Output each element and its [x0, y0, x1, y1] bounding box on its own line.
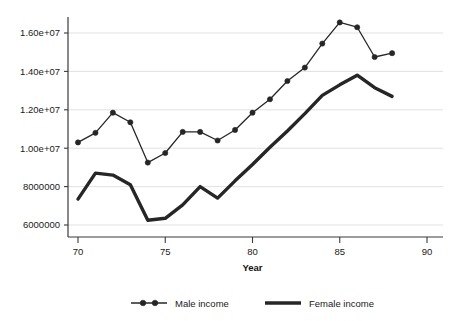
- data-point-male-74: [145, 160, 150, 165]
- data-point-male-82: [285, 78, 290, 83]
- data-point-male-71: [93, 130, 98, 135]
- x-tick-label-2: 80: [247, 246, 258, 257]
- data-point-male-73: [128, 120, 133, 125]
- x-tick-label-1: 75: [160, 246, 171, 257]
- data-point-male-81: [267, 97, 272, 102]
- series-line-female-income: [78, 75, 392, 220]
- chart-canvas: 600000080000001.00e+071.20e+071.40e+071.…: [0, 0, 451, 321]
- data-point-male-75: [163, 150, 168, 155]
- data-point-male-78: [215, 138, 220, 143]
- legend-label-female-income: Female income: [309, 298, 374, 309]
- data-point-male-77: [198, 129, 203, 134]
- data-point-male-83: [302, 65, 307, 70]
- y-tick-label-1: 8000000: [23, 181, 60, 192]
- income-line-chart: 600000080000001.00e+071.20e+071.40e+071.…: [0, 0, 451, 321]
- data-point-male-84: [320, 41, 325, 46]
- y-tick-label-5: 1.60e+07: [20, 27, 60, 38]
- legend-marker-male-2: [152, 300, 158, 306]
- legend-marker-male-1: [140, 300, 146, 306]
- data-point-male-79: [232, 127, 237, 132]
- data-point-male-85: [337, 20, 342, 25]
- data-point-male-80: [250, 110, 255, 115]
- y-tick-label-2: 1.00e+07: [20, 143, 60, 154]
- series-line-male-income: [78, 22, 392, 162]
- data-point-male-76: [180, 129, 185, 134]
- x-tick-label-3: 85: [334, 246, 345, 257]
- data-point-male-86: [355, 25, 360, 30]
- x-tick-label-4: 90: [422, 246, 433, 257]
- data-point-male-87: [372, 54, 377, 59]
- data-point-male-72: [110, 110, 115, 115]
- data-point-male-88: [390, 51, 395, 56]
- y-tick-label-0: 6000000: [23, 219, 60, 230]
- y-tick-label-3: 1.20e+07: [20, 104, 60, 115]
- legend-label-male-income: Male income: [175, 298, 229, 309]
- data-point-male-70: [75, 140, 80, 145]
- y-tick-label-4: 1.40e+07: [20, 66, 60, 77]
- x-tick-label-0: 70: [73, 246, 84, 257]
- x-axis-title: Year: [242, 262, 262, 273]
